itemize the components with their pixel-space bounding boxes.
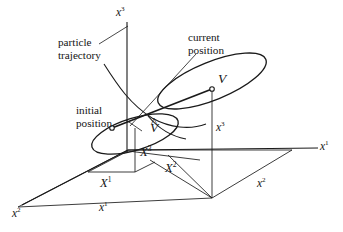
coord-label-X2: X2 bbox=[165, 161, 176, 176]
annotation-current-position-line2: position bbox=[188, 44, 224, 57]
coord-label-X2-base: X bbox=[165, 161, 173, 175]
axis-label-x1-right: x1 bbox=[320, 140, 329, 154]
annotation-particle-trajectory-line1: particle bbox=[58, 36, 92, 48]
coord-label-X1-sup: 1 bbox=[108, 175, 112, 184]
figure-container: particle trajectory current position ini… bbox=[0, 0, 343, 232]
coord-label-x3-height-sup: 3 bbox=[221, 120, 225, 128]
label-current-point-V: V bbox=[218, 71, 226, 87]
annotation-particle-trajectory: particle trajectory bbox=[58, 36, 101, 62]
coord-label-x1-ground-sup: 1 bbox=[104, 200, 108, 208]
ground-plane-group bbox=[18, 150, 292, 207]
annotation-initial-position: initial position bbox=[76, 104, 112, 130]
ground-edge-front bbox=[18, 198, 212, 207]
coord-label-X3: X3 bbox=[140, 145, 151, 160]
axis-label-x1-right-sup: 1 bbox=[325, 139, 329, 147]
coord-label-X1: X1 bbox=[100, 176, 111, 191]
coord-label-x3-height: x3 bbox=[216, 121, 225, 135]
ground-edge-right-front bbox=[212, 150, 292, 198]
annotation-current-position: current position bbox=[188, 31, 224, 57]
coord-label-x1-ground: x1 bbox=[99, 201, 108, 215]
diagram-canvas bbox=[0, 0, 343, 232]
coord-label-X3-base: X bbox=[140, 145, 148, 159]
coord-label-X1-base: X bbox=[100, 176, 108, 190]
ground-proj-initial-connector bbox=[135, 162, 155, 172]
annotation-initial-position-line1: initial bbox=[76, 104, 102, 116]
axis-label-x2-left: x2 bbox=[12, 207, 21, 221]
annotation-particle-trajectory-line2: trajectory bbox=[58, 49, 101, 62]
axis-label-x2-left-sup: 2 bbox=[17, 206, 21, 214]
leader-particle-trajectory bbox=[99, 26, 128, 44]
annotation-current-position-line1: current bbox=[188, 31, 220, 43]
annotation-initial-position-line2: position bbox=[76, 117, 112, 130]
axis-label-x3-vertical-sup: 3 bbox=[121, 5, 125, 13]
leader-current-position bbox=[130, 54, 196, 126]
label-initial-point-Vhat: ^ V bbox=[150, 120, 158, 136]
coord-label-x2-ground: x2 bbox=[257, 177, 266, 191]
axis-label-x3-vertical: x3 bbox=[116, 6, 125, 20]
ground-proj-initial-x2 bbox=[128, 151, 200, 160]
ground-proj-current-to-x1 bbox=[150, 160, 212, 198]
label-current-point-V-text: V bbox=[218, 71, 226, 86]
hat-accent-icon: ^ bbox=[151, 115, 157, 130]
marker-current-position bbox=[210, 87, 215, 92]
axis-x2-left bbox=[22, 150, 128, 205]
coord-label-X2-sup: 2 bbox=[173, 160, 177, 169]
coord-label-x2-ground-sup: 2 bbox=[262, 176, 266, 184]
coord-label-X3-sup: 3 bbox=[148, 144, 152, 153]
label-initial-point-Vhat-wrap: ^ V bbox=[150, 120, 158, 136]
